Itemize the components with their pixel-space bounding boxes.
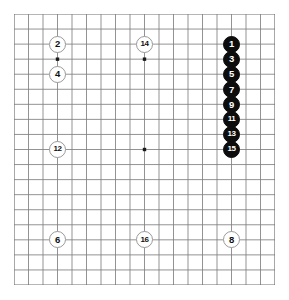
stone-black-15[interactable]: 15 bbox=[223, 141, 240, 158]
stone-white-4[interactable]: 4 bbox=[49, 66, 66, 83]
stone-label: 15 bbox=[227, 145, 235, 153]
stone-white-12[interactable]: 12 bbox=[49, 141, 66, 158]
stone-label: 11 bbox=[228, 115, 236, 123]
star-point-icon bbox=[143, 57, 146, 60]
stone-label: 8 bbox=[229, 235, 234, 245]
stone-label: 13 bbox=[227, 130, 235, 138]
stone-label: 12 bbox=[53, 145, 61, 153]
stone-label: 3 bbox=[229, 54, 234, 64]
go-board-diagram: 135791113152412614168 bbox=[0, 0, 289, 300]
stone-label: 7 bbox=[229, 84, 234, 94]
stone-label: 4 bbox=[55, 69, 60, 79]
stone-label: 1 bbox=[229, 39, 234, 49]
stone-white-2[interactable]: 2 bbox=[49, 36, 66, 53]
stone-label: 6 bbox=[55, 235, 60, 245]
stone-white-14[interactable]: 14 bbox=[136, 36, 153, 53]
stone-label: 14 bbox=[140, 40, 148, 48]
stone-label: 5 bbox=[229, 69, 234, 79]
stone-label: 9 bbox=[229, 99, 234, 109]
star-point-icon bbox=[56, 57, 59, 60]
stone-label: 2 bbox=[55, 39, 60, 49]
stone-label: 16 bbox=[140, 235, 148, 243]
star-point-icon bbox=[143, 148, 146, 151]
